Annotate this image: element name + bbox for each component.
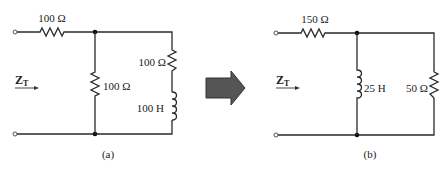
branch-resistor-a-label: 100 Ω xyxy=(139,56,166,68)
circuit-b: 150 Ω 25 H 50 Ω ZT (b) xyxy=(274,13,438,161)
terminal-top-a xyxy=(13,30,17,34)
series-resistor-a-label: 100 Ω xyxy=(38,12,65,24)
terminal-top-b xyxy=(274,31,278,35)
branch-inductor-a-icon xyxy=(172,92,177,120)
circuit-a: 100 Ω 100 Ω 100 Ω 100 H ZT (a) xyxy=(13,12,177,161)
shunt-resistor-b-label: 50 Ω xyxy=(406,82,428,94)
shunt-resistor-b-icon xyxy=(430,72,438,98)
caption-b: (b) xyxy=(364,148,377,161)
series-resistor-b-label: 150 Ω xyxy=(301,13,328,25)
impedance-label-b: ZT xyxy=(276,73,290,88)
branch-resistor-a-icon xyxy=(168,50,176,92)
transform-arrow-icon xyxy=(206,71,245,105)
caption-a: (a) xyxy=(102,148,115,161)
bottom-wire-b xyxy=(278,98,434,135)
branch-inductor-a-label: 100 H xyxy=(137,102,164,114)
shunt-inductor-b-icon xyxy=(357,33,362,135)
impedance-label-a: ZT xyxy=(15,73,29,88)
shunt-resistor-a-icon xyxy=(91,32,99,134)
shunt-inductor-b-label: 25 H xyxy=(364,82,386,94)
circuit-figure: 100 Ω 100 Ω 100 Ω 100 H ZT (a) 150 Ω 25 xyxy=(0,0,448,169)
terminal-bottom-b xyxy=(274,133,278,137)
terminal-bottom-a xyxy=(13,132,17,136)
arrowhead-a-icon xyxy=(34,86,39,90)
series-resistor-b-icon xyxy=(278,29,434,72)
arrowhead-b-icon xyxy=(295,86,300,90)
shunt-resistor-a-label: 100 Ω xyxy=(103,80,130,92)
